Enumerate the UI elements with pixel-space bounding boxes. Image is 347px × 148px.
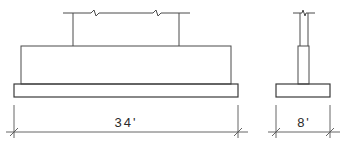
- section-stem-lower: [298, 46, 309, 84]
- footing-drawing: 34' 8': [0, 0, 347, 148]
- section-top-break-line: [293, 10, 315, 16]
- elevation-view: 34': [6, 10, 248, 138]
- top-break-line: [63, 10, 190, 16]
- section-footing: [276, 84, 330, 97]
- footing: [14, 84, 238, 97]
- section-view: 8': [268, 10, 340, 138]
- stem-wall: [21, 46, 231, 84]
- dimension-label-8ft: 8': [297, 115, 311, 130]
- dimension-label-34ft: 34': [115, 115, 138, 130]
